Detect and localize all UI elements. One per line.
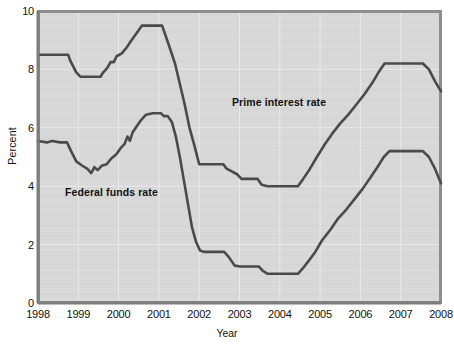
y-tick-label: 8 bbox=[2, 63, 34, 75]
x-tick-label: 2007 bbox=[389, 308, 413, 320]
x-tick-label: 1998 bbox=[26, 308, 50, 320]
x-tick-label: 2008 bbox=[429, 308, 453, 320]
y-tick-label: 4 bbox=[2, 180, 34, 192]
series-label-prime-interest-rate: Prime interest rate bbox=[232, 96, 326, 108]
y-tick-label: 6 bbox=[2, 122, 34, 134]
y-tick-label: 10 bbox=[2, 5, 34, 17]
x-tick-label: 2001 bbox=[147, 308, 171, 320]
x-tick-label: 2000 bbox=[107, 308, 131, 320]
x-tick-label: 2005 bbox=[308, 308, 332, 320]
plot-area bbox=[0, 0, 454, 347]
x-tick-label: 2004 bbox=[268, 308, 292, 320]
x-tick-label: 1999 bbox=[66, 308, 90, 320]
series-label-federal-funds-rate: Federal funds rate bbox=[65, 186, 158, 198]
x-tick-label: 2002 bbox=[187, 308, 211, 320]
x-tick-label: 2003 bbox=[228, 308, 252, 320]
y-tick-label: 2 bbox=[2, 239, 34, 251]
x-tick-label: 2006 bbox=[349, 308, 373, 320]
y-axis-tick-labels: 0246810 bbox=[0, 0, 34, 347]
chart-container: Percent 0246810 199819992000200120022003… bbox=[0, 0, 454, 347]
x-axis-title: Year bbox=[0, 327, 454, 339]
